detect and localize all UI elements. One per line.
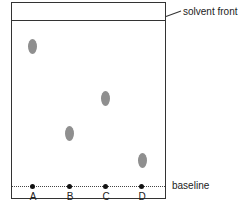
solvent-front-leader (166, 11, 181, 17)
origin-dot-a (30, 184, 35, 189)
solvent-front-label: solvent front (183, 6, 237, 17)
lane-label-c: C (101, 191, 111, 202)
chromatography-plate (11, 2, 166, 199)
lane-label-b: B (65, 191, 75, 202)
origin-dot-b (67, 184, 72, 189)
lane-label-d: D (137, 191, 147, 202)
solvent-front-line (11, 20, 166, 21)
lane-label-a: A (28, 191, 38, 202)
spot-c (101, 91, 110, 106)
baseline-label: baseline (172, 180, 209, 191)
origin-dot-d (139, 184, 144, 189)
spot-d (138, 153, 147, 168)
spot-b (65, 126, 74, 141)
origin-dot-c (103, 184, 108, 189)
spot-a (28, 39, 37, 54)
